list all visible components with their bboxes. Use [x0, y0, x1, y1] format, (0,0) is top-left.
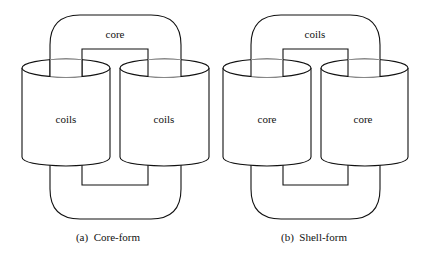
transformer-diagrams: core coils coils (a) Core-form coils cor…	[0, 0, 429, 256]
outer-loop-bottom	[251, 165, 380, 219]
right-cylinder-label: coils	[154, 113, 175, 125]
loop-label: coils	[305, 28, 326, 40]
outer-loop-bottom	[50, 165, 181, 219]
caption: (a) Core-form	[76, 231, 141, 244]
panel-core-form: core coils coils (a) Core-form	[22, 15, 209, 244]
caption: (b) Shell-form	[281, 231, 347, 244]
left-cylinder-label: core	[258, 113, 277, 125]
loop-label: core	[106, 28, 125, 40]
right-cylinder-label: core	[354, 113, 373, 125]
panel-shell-form: coils core core (b) Shell-form	[223, 15, 408, 244]
left-cylinder-label: coils	[56, 113, 77, 125]
